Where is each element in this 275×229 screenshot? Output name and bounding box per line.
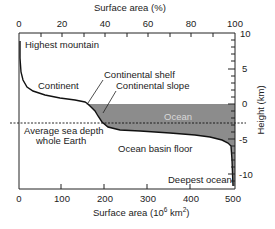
bottom-tick-300: 300 [140, 193, 156, 204]
bottom-tick-200: 200 [97, 193, 113, 204]
bottom-tick-100: 100 [54, 193, 70, 204]
right-tick-neg5: -5 [239, 134, 247, 145]
label-continent: Continent [38, 80, 79, 91]
right-tick-10: 10 [240, 28, 251, 39]
bottom-tick-400: 400 [183, 193, 199, 204]
top-axis-ticks [41, 33, 213, 37]
label-continental-slope: Continental slope [116, 80, 189, 91]
right-tick-0: 0 [242, 98, 247, 109]
label-whole-earth: whole Earth [35, 135, 86, 146]
right-tick-5: 5 [242, 63, 247, 74]
top-tick-80: 80 [186, 18, 197, 29]
top-tick-60: 60 [143, 18, 154, 29]
hypsometric-chart: Surface area (%) 0 20 40 60 80 100 0 100… [0, 0, 275, 229]
label-highest-mountain: Highest mountain [25, 39, 99, 50]
right-axis-title: Height (km) [255, 85, 266, 134]
label-ocean-basin-floor: Ocean basin floor [118, 143, 192, 154]
top-tick-0: 0 [16, 18, 21, 29]
right-tick-neg10: -10 [239, 169, 253, 180]
label-ocean: Ocean [164, 111, 192, 122]
top-tick-20: 20 [57, 18, 68, 29]
top-tick-40: 40 [100, 18, 111, 29]
shelf-leader [88, 80, 103, 103]
bottom-tick-500: 500 [225, 193, 241, 204]
bottom-axis-title: Surface area (106 km2) [93, 206, 190, 218]
bottom-tick-0: 0 [16, 193, 21, 204]
label-deepest-ocean: Deepest ocean [168, 174, 232, 185]
top-axis-title: Surface area (%) [94, 2, 166, 13]
label-continental-shelf: Continental shelf [104, 69, 175, 80]
